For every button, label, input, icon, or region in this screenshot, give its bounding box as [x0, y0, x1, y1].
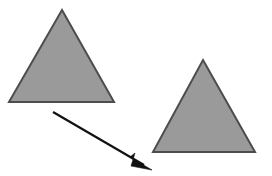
diagram-canvas [0, 0, 272, 176]
diagram-svg [0, 0, 272, 176]
